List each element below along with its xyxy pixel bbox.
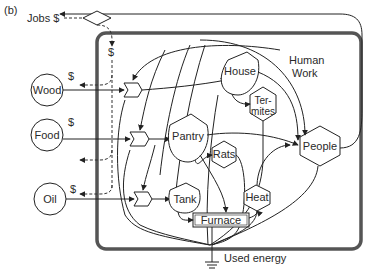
house-to-termites <box>232 94 250 104</box>
food-interaction-gate <box>130 132 149 146</box>
heat-to-people <box>257 145 290 185</box>
rats-to-sink <box>210 155 245 245</box>
storage-tank-label: Tank <box>173 193 197 205</box>
source-oil-label: Oil <box>43 193 56 205</box>
money-in-label: $ <box>108 46 114 58</box>
consumer-rats-label: Rats <box>213 148 236 160</box>
human-work-label-1: Human <box>289 54 324 66</box>
consumer-heat-label: Heat <box>245 191 268 203</box>
wood-money-label: $ <box>68 70 74 82</box>
consumer-termites-label-2: mites <box>251 106 275 117</box>
consumer-termites-label-1: Ter- <box>254 95 271 106</box>
figure-label: (b) <box>4 4 17 16</box>
jobs-transaction-diamond <box>83 11 111 25</box>
source-food-label: Food <box>34 129 59 141</box>
source-wood-label: Wood <box>33 84 62 96</box>
storage-pantry-label: Pantry <box>172 130 204 142</box>
consumer-people-label: People <box>303 140 337 152</box>
wood-interaction-gate <box>124 83 142 97</box>
oil-interaction-gate <box>134 192 152 206</box>
used-energy-label: Used energy <box>224 252 287 264</box>
process-furnace-label: Furnace <box>201 214 241 226</box>
storage-house-label: House <box>224 65 256 77</box>
oil-money-label: $ <box>70 183 76 195</box>
gate-to-house <box>142 80 226 90</box>
human-work-label-2: Work <box>292 67 318 79</box>
jobs-label: Jobs $ <box>27 12 59 24</box>
energy-systems-diagram: (b) Jobs $ $ Wood $ Food $ Oil $ House T… <box>0 0 368 277</box>
work-to-oil-gate <box>143 145 155 190</box>
food-money-label: $ <box>68 116 74 128</box>
